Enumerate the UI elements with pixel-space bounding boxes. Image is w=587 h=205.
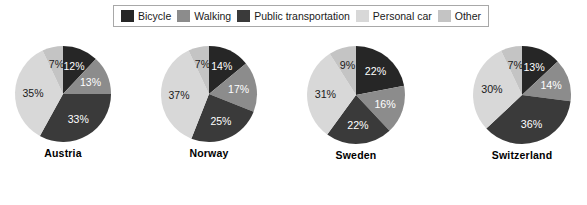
legend-swatch-bicycle — [121, 10, 134, 22]
legend-swatch-other — [438, 10, 451, 22]
legend-item-other: Other — [438, 10, 481, 22]
pie-slice-label: 30% — [481, 83, 503, 95]
pie-slice-label: 7% — [49, 58, 64, 70]
legend-label-other: Other — [455, 11, 481, 22]
pie-slice-label: 16% — [374, 98, 396, 110]
pie-country-label-sweden: Sweden — [286, 149, 426, 161]
pie-slice-label: 7% — [195, 58, 210, 70]
pie-slice-label: 12% — [64, 60, 85, 72]
legend-label-walking: Walking — [194, 11, 231, 22]
pie-country-label-switzerland: Switzerland — [452, 149, 587, 161]
pie-slice-label: 14% — [211, 60, 232, 72]
pie-slice-label: 25% — [210, 115, 231, 127]
legend-label-public-transportation: Public transportation — [254, 11, 350, 22]
legend-item-walking: Walking — [177, 10, 231, 22]
chart-legend: Bicycle Walking Public transportation Pe… — [113, 5, 489, 27]
pie-slice-label: 33% — [68, 113, 89, 125]
pie-slice-label: 35% — [23, 87, 44, 99]
pie-slice-label: 36% — [521, 118, 543, 130]
pie-chart-sweden: 22%16%22%31%9% Sweden — [286, 44, 426, 161]
pie-slice-label: 22% — [347, 119, 369, 131]
legend-swatch-public-transportation — [237, 10, 250, 22]
pie-slice-label: 9% — [340, 59, 356, 71]
pie-chart-austria: 12%13%33%35%7% Austria — [0, 44, 133, 159]
pie-svg-austria: 12%13%33%35%7% — [13, 44, 113, 144]
legend-swatch-walking — [177, 10, 190, 22]
legend-label-personal-car: Personal car — [373, 11, 432, 22]
pie-chart-switzerland: 13%14%36%30%7% Switzerland — [452, 44, 587, 161]
legend-item-personal-car: Personal car — [356, 10, 432, 22]
pie-chart-norway: 14%17%25%37%7% Norway — [139, 44, 279, 159]
pie-slice-label: 7% — [508, 59, 524, 71]
pie-svg-norway: 14%17%25%37%7% — [159, 44, 259, 144]
pie-svg-sweden: 22%16%22%31%9% — [305, 44, 407, 146]
legend-swatch-personal-car — [356, 10, 369, 22]
legend-item-public-transportation: Public transportation — [237, 10, 350, 22]
pie-slice-label: 13% — [80, 76, 101, 88]
legend-label-bicycle: Bicycle — [138, 11, 171, 22]
pie-slice-label: 13% — [523, 61, 545, 73]
pie-country-label-norway: Norway — [139, 147, 279, 159]
pie-country-label-austria: Austria — [0, 147, 133, 159]
pie-slice-label: 37% — [169, 89, 190, 101]
pie-svg-switzerland: 13%14%36%30%7% — [471, 44, 573, 146]
pie-slice-label: 17% — [228, 83, 249, 95]
pie-slice-label: 22% — [365, 65, 387, 77]
pie-slice-label: 14% — [540, 79, 562, 91]
pie-slice-label: 31% — [315, 88, 337, 100]
legend-item-bicycle: Bicycle — [121, 10, 171, 22]
